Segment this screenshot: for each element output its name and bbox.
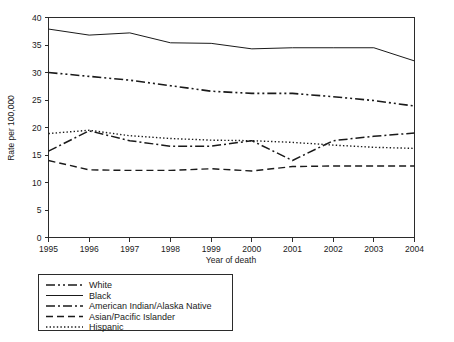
legend-label-black: Black — [89, 291, 112, 301]
x-tick-label: 2003 — [364, 244, 383, 254]
legend-label-asian-pacific-islander: Asian/Pacific Islander — [89, 312, 175, 322]
x-tick-label: 2000 — [242, 244, 261, 254]
x-axis-title: Year of death — [206, 255, 257, 265]
x-tick-label: 1997 — [120, 244, 139, 254]
data-series-group — [49, 29, 415, 171]
series-line-black — [49, 29, 415, 61]
legend-label-white: White — [89, 280, 112, 290]
plot-frame — [49, 18, 415, 238]
x-tick-label: 1995 — [39, 244, 58, 254]
y-tick-label: 0 — [37, 233, 42, 243]
x-tick-label: 1998 — [161, 244, 180, 254]
y-axis-ticks: 0510152025303540 — [32, 13, 48, 243]
line-chart: 0510152025303540 19951996199719981999200… — [0, 0, 454, 342]
y-tick-label: 35 — [32, 40, 42, 50]
x-tick-label: 2002 — [324, 244, 343, 254]
legend-items: WhiteBlackAmerican Indian/Alaska NativeA… — [46, 280, 212, 332]
legend-label-american-indian-alaska-native: American Indian/Alaska Native — [89, 301, 212, 311]
y-tick-label: 5 — [37, 205, 42, 215]
y-tick-label: 40 — [32, 13, 42, 23]
x-tick-label: 1999 — [202, 244, 221, 254]
y-tick-label: 25 — [32, 95, 42, 105]
x-tick-label: 1996 — [80, 244, 99, 254]
legend-label-hispanic: Hispanic — [89, 322, 124, 332]
y-tick-label: 10 — [32, 178, 42, 188]
series-line-hispanic — [49, 130, 415, 148]
series-line-american-indian-alaska-native — [49, 131, 415, 161]
chart-figure: 0510152025303540 19951996199719981999200… — [0, 0, 454, 342]
x-tick-label: 2004 — [405, 244, 424, 254]
series-line-white — [49, 73, 415, 107]
series-line-asian-pacific-islander — [49, 161, 415, 171]
y-tick-label: 15 — [32, 150, 42, 160]
y-tick-label: 30 — [32, 68, 42, 78]
y-axis-title: Rate per 100,000 — [6, 95, 16, 161]
x-axis-ticks: 1995199619971998199920002001200220032004 — [39, 238, 424, 254]
y-tick-label: 20 — [32, 123, 42, 133]
x-tick-label: 2001 — [283, 244, 302, 254]
